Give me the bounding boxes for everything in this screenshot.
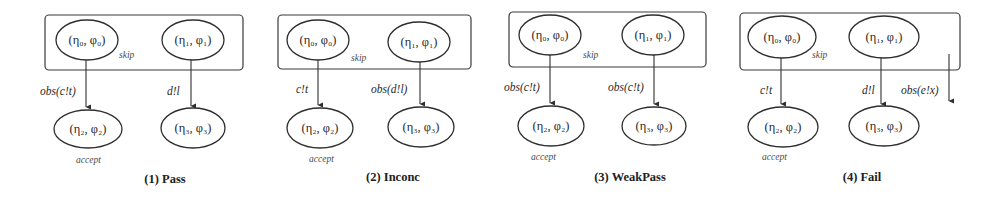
transition-label: obs(e!x) <box>901 84 939 97</box>
state-label: (η₀, φ₀) <box>68 33 105 47</box>
accept-label: accept <box>762 152 787 162</box>
state-node-n3: (η₃, φ₃) <box>622 107 686 145</box>
accept-label: accept <box>309 154 334 164</box>
state-label: (η₁, φ₁) <box>865 30 902 44</box>
transition-label: d!l <box>167 85 180 97</box>
state-node-n0: (η₀, φ₀) <box>519 15 581 55</box>
panel-3: obs(c!t)obs(c!t)(η₀, φ₀)(η₁, φ₁)(η₂, φ₂)… <box>504 12 706 184</box>
state-node-n2: (η₂, φ₂) <box>287 108 353 148</box>
panels-container: obs(c!t)d!l(η₀, φ₀)(η₁, φ₁)(η₂, φ₂)(η₃, … <box>40 12 960 186</box>
transition-label: obs(c!t) <box>504 81 540 94</box>
panel-caption: (3) WeakPass <box>594 170 666 184</box>
state-label: (η₂, φ₂) <box>69 122 106 136</box>
state-node-n2: (η₂, φ₂) <box>54 110 122 148</box>
transition-label: d!l <box>862 84 875 96</box>
panel-2: c!tobs(d!l)(η₀, φ₀)(η₁, φ₁)(η₂, φ₂)(η₃, … <box>278 15 471 184</box>
state-node-n1: (η₁, φ₁) <box>162 20 224 60</box>
panel-caption: (1) Pass <box>144 172 185 186</box>
state-label: (η₀, φ₀) <box>299 33 336 47</box>
state-label: (η₂, φ₂) <box>532 119 569 133</box>
verdict-diagram-figure: obs(c!t)d!l(η₀, φ₀)(η₁, φ₁)(η₂, φ₂)(η₃, … <box>0 0 1001 199</box>
state-label: (η₁, φ₁) <box>174 33 211 47</box>
state-node-n2: (η₂, φ₂) <box>518 106 584 146</box>
state-node-n3: (η₃, φ₃) <box>849 106 919 146</box>
state-label: (η₀, φ₀) <box>531 28 568 42</box>
skip-label: skip <box>583 50 599 60</box>
transition-label: obs(c!t) <box>608 81 644 94</box>
state-label: (η₃, φ₃) <box>402 120 439 134</box>
state-label: (η₁, φ₁) <box>400 35 437 49</box>
state-node-n1: (η₁, φ₁) <box>388 22 450 62</box>
state-node-n0: (η₀, φ₀) <box>287 20 349 60</box>
state-node-n3: (η₃, φ₃) <box>388 107 454 147</box>
panel-caption: (4) Fail <box>843 170 882 184</box>
accept-label: accept <box>531 152 556 162</box>
panel-1: obs(c!t)d!l(η₀, φ₀)(η₁, φ₁)(η₂, φ₂)(η₃, … <box>40 15 243 186</box>
state-label: (η₁, φ₁) <box>634 28 671 42</box>
state-node-n0: (η₀, φ₀) <box>56 20 118 60</box>
transition-label: c!t <box>296 83 309 95</box>
skip-label: skip <box>119 50 135 60</box>
panel-4: c!td!lobs(e!x)(η₀, φ₀)(η₁, φ₁)(η₂, φ₂)(η… <box>740 13 960 184</box>
state-node-n2: (η₂, φ₂) <box>748 107 818 147</box>
state-label: (η₃, φ₃) <box>865 119 902 133</box>
skip-label: skip <box>351 53 367 63</box>
state-label: (η₂, φ₂) <box>301 121 338 135</box>
state-label: (η₀, φ₀) <box>763 30 800 44</box>
state-node-n1: (η₁, φ₁) <box>849 16 919 58</box>
transition-label: obs(d!l) <box>371 83 408 96</box>
state-label: (η₃, φ₃) <box>635 119 672 133</box>
panel-caption: (2) Inconc <box>366 170 420 184</box>
state-label: (η₃, φ₃) <box>174 121 211 135</box>
state-node-n3: (η₃, φ₃) <box>161 108 225 148</box>
transition-label: c!t <box>760 84 773 96</box>
skip-label: skip <box>812 50 828 60</box>
state-node-n1: (η₁, φ₁) <box>622 15 684 55</box>
state-node-n0: (η₀, φ₀) <box>748 16 816 58</box>
accept-label: accept <box>76 155 101 165</box>
state-label: (η₂, φ₂) <box>764 120 801 134</box>
transition-label: obs(c!t) <box>40 85 76 98</box>
